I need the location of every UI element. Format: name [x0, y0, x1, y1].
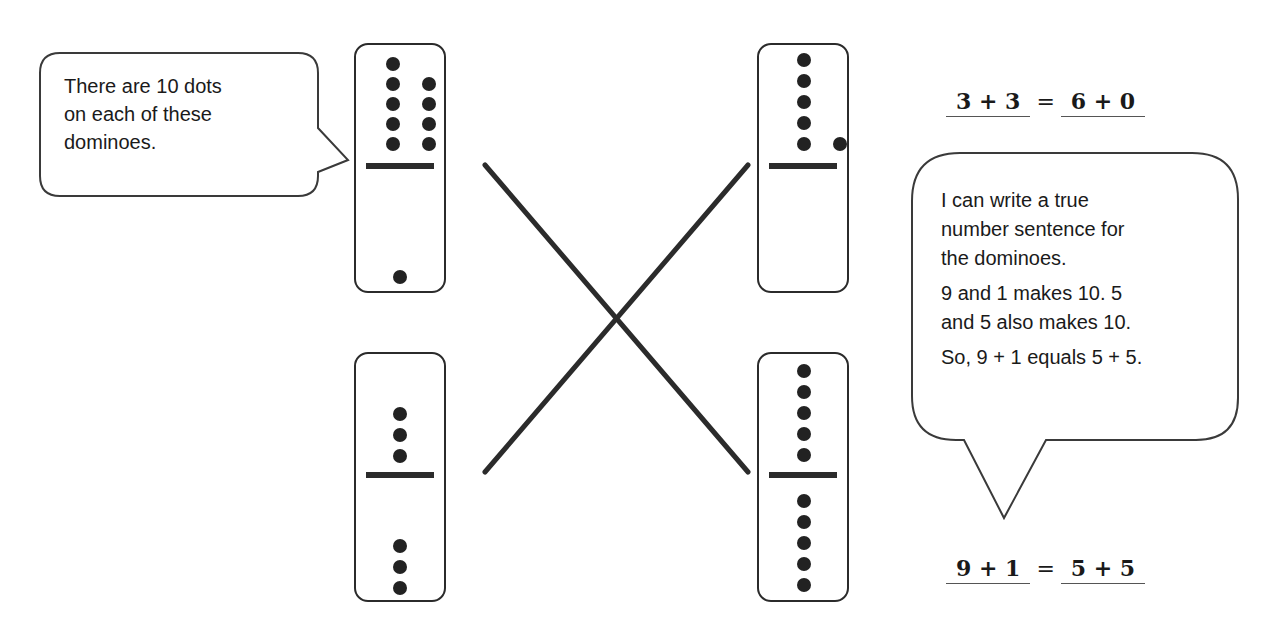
pip — [393, 581, 407, 595]
pip — [386, 117, 400, 131]
pip — [797, 95, 811, 109]
pip — [386, 77, 400, 91]
pip — [386, 97, 400, 111]
pip — [797, 448, 811, 462]
pip — [797, 137, 811, 151]
left-bubble-line: dominoes. — [64, 128, 222, 156]
pip — [393, 428, 407, 442]
equation-bottom-right-side: 5 + 5 — [1061, 555, 1145, 584]
equation-bottom-left-side: 9 + 1 — [946, 555, 1030, 584]
pip — [797, 74, 811, 88]
pip — [393, 407, 407, 421]
domino-matching-diagram: There are 10 dots on each of these domin… — [0, 0, 1272, 628]
pip — [797, 494, 811, 508]
equals-sign: = — [1036, 89, 1054, 114]
pip — [422, 137, 436, 151]
domino-divider — [769, 472, 837, 478]
pip — [797, 406, 811, 420]
right-bubble-line: the dominoes. — [941, 244, 1142, 273]
pip — [386, 57, 400, 71]
left-bubble-text: There are 10 dots on each of these domin… — [64, 72, 222, 156]
pip — [797, 515, 811, 529]
domino-divider — [366, 472, 434, 478]
pip — [797, 536, 811, 550]
pip — [422, 97, 436, 111]
left-bubble-line: There are 10 dots — [64, 72, 222, 100]
pip — [797, 364, 811, 378]
equation-top: 3 + 3 = 6 + 0 — [946, 88, 1145, 117]
pip — [797, 557, 811, 571]
pip — [393, 539, 407, 553]
right-bubble-line: So, 9 + 1 equals 5 + 5. — [941, 343, 1142, 372]
domino-divider — [366, 163, 434, 169]
pip — [393, 560, 407, 574]
pip — [797, 427, 811, 441]
right-bubble-text: I can write a true number sentence for t… — [941, 186, 1142, 372]
right-bubble-line: number sentence for — [941, 215, 1142, 244]
pip — [797, 385, 811, 399]
domino-3-3 — [354, 352, 446, 602]
equation-top-left-side: 3 + 3 — [946, 88, 1030, 117]
pip — [393, 270, 407, 284]
pip — [833, 137, 847, 151]
domino-5-5 — [757, 352, 849, 602]
domino-divider — [769, 163, 837, 169]
domino-9-1 — [354, 43, 446, 293]
equals-sign: = — [1036, 556, 1054, 581]
equation-top-right-side: 6 + 0 — [1061, 88, 1145, 117]
right-bubble-line: I can write a true — [941, 186, 1142, 215]
left-bubble-line: on each of these — [64, 100, 222, 128]
pip — [422, 117, 436, 131]
right-bubble-line: and 5 also makes 10. — [941, 308, 1142, 337]
domino-6-0 — [757, 43, 849, 293]
pip — [797, 116, 811, 130]
equation-bottom: 9 + 1 = 5 + 5 — [946, 555, 1145, 584]
pip — [422, 77, 436, 91]
pip — [797, 53, 811, 67]
pip — [797, 578, 811, 592]
pip — [386, 137, 400, 151]
pip — [393, 449, 407, 463]
right-bubble-line: 9 and 1 makes 10. 5 — [941, 279, 1142, 308]
